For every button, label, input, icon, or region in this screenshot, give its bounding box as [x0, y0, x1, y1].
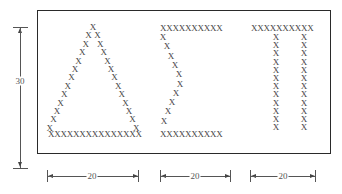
delta-glyph: X	[47, 124, 54, 133]
width-dimension-pi-right-tick	[315, 170, 316, 182]
height-dimension-label: 30	[15, 77, 26, 86]
pi-glyph: X	[301, 123, 308, 132]
width-dimension-sigma-label: 20	[190, 172, 201, 181]
pi-glyph: X	[273, 123, 280, 132]
sigma-bottom-row: XXXXXXXXXX	[160, 130, 223, 139]
height-dimension-bottom-tick	[13, 168, 28, 169]
delta-glyph: X	[133, 124, 140, 133]
sigma-top-row: XXXXXXXXXX	[160, 24, 223, 33]
height-dimension-line	[20, 28, 21, 168]
width-dimension-delta-right-tick	[138, 170, 139, 182]
height-dimension-down-arrow	[18, 162, 22, 167]
width-dimension-sigma-right-tick	[230, 170, 231, 182]
delta-base-row: XXXXXXXXXXXXXXX	[48, 130, 142, 139]
sigma-glyph: X	[161, 117, 168, 126]
width-dimension-pi-label: 20	[278, 172, 289, 181]
width-dimension-delta-label: 20	[87, 172, 98, 181]
